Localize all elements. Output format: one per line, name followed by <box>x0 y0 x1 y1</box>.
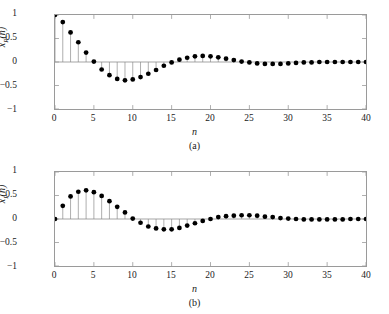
stem-series-b <box>55 172 366 266</box>
y-tick-b-1: 0.5 <box>0 189 17 199</box>
y-tick-b-0: 1 <box>0 165 17 175</box>
stem-series-a <box>55 15 366 109</box>
y-tick-b-4: −1 <box>0 261 17 271</box>
y-tick-a-1: 0.5 <box>0 32 17 42</box>
panel-a: xR(n) 1 0.5 0 −0.5 −1 0 5 10 15 20 25 30… <box>0 0 389 157</box>
x-tick-a-5: 25 <box>234 113 264 123</box>
x-tick-a-6: 30 <box>273 113 303 123</box>
caption-b: (b) <box>0 297 389 308</box>
y-tick-a-2: 0 <box>0 56 17 66</box>
x-tick-b-5: 25 <box>234 270 264 280</box>
x-tick-b-0: 0 <box>39 270 69 280</box>
x-tick-a-1: 5 <box>78 113 108 123</box>
caption-a: (a) <box>0 140 389 151</box>
x-tick-b-3: 15 <box>156 270 186 280</box>
x-tick-a-3: 15 <box>156 113 186 123</box>
panel-b: xI(n) 1 0.5 0 −0.5 −1 0 5 10 15 20 25 30… <box>0 157 389 314</box>
plot-area-a <box>54 14 367 110</box>
x-tick-b-4: 20 <box>195 270 225 280</box>
x-tick-b-8: 40 <box>351 270 381 280</box>
x-tick-b-7: 35 <box>312 270 342 280</box>
y-tick-a-3: −0.5 <box>0 80 17 90</box>
x-tick-b-2: 10 <box>117 270 147 280</box>
x-axis-label-a: n <box>0 126 389 137</box>
y-tick-a-4: −1 <box>0 104 17 114</box>
y-tick-b-3: −0.5 <box>0 237 17 247</box>
x-tick-a-0: 0 <box>39 113 69 123</box>
x-tick-a-7: 35 <box>312 113 342 123</box>
x-tick-a-4: 20 <box>195 113 225 123</box>
x-tick-a-2: 10 <box>117 113 147 123</box>
y-tick-a-0: 1 <box>0 8 17 18</box>
x-axis-label-b: n <box>0 283 389 294</box>
x-tick-b-1: 5 <box>78 270 108 280</box>
x-tick-a-8: 40 <box>351 113 381 123</box>
stem-plot-figure: xR(n) 1 0.5 0 −0.5 −1 0 5 10 15 20 25 30… <box>0 0 389 314</box>
y-tick-b-2: 0 <box>0 213 17 223</box>
plot-area-b <box>54 171 367 267</box>
x-tick-b-6: 30 <box>273 270 303 280</box>
